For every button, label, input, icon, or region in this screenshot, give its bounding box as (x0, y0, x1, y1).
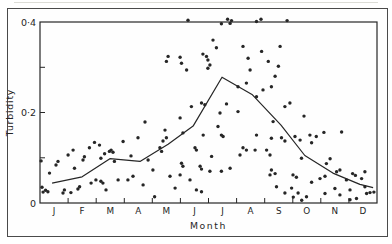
scatter-dot (129, 154, 132, 157)
scatter-dot (348, 198, 351, 201)
scatter-dot (185, 68, 188, 71)
scatter-dot (61, 191, 64, 194)
scanned-figure-page: 00·20·4 JFMAMJJASOND Turbidity Month (0, 0, 392, 244)
scatter-dot (273, 172, 276, 175)
x-axis-title: Month (190, 220, 227, 231)
scatter-dot (200, 167, 203, 170)
scatter-dot (302, 114, 305, 117)
month-label: O (303, 206, 310, 216)
scatter-dot (178, 56, 181, 59)
scatter-dot (348, 188, 351, 191)
scatter-dot (56, 160, 59, 163)
scatter-dot (202, 133, 205, 136)
scatter-dot (285, 19, 288, 22)
scatter-dot (283, 105, 286, 108)
scatter-dot (168, 175, 171, 178)
scatter-dot (241, 146, 244, 149)
scatter-dot (292, 195, 295, 198)
scatter-dot (48, 171, 51, 174)
scatter-dot (275, 185, 278, 188)
y-tick-label: 0·2 (21, 107, 36, 118)
scatter-dot (246, 57, 249, 60)
scatter-dot (270, 137, 273, 140)
scatter-dot (277, 65, 280, 68)
scatter-dot (39, 159, 42, 162)
scatter-dot (261, 88, 264, 91)
scatter-dot (267, 60, 270, 63)
scatter-dot (195, 188, 198, 191)
scatter-dot (318, 177, 321, 180)
scatter-dot (78, 185, 81, 188)
scatter-dot (255, 133, 258, 136)
scatter-dot (141, 183, 144, 186)
scatter-dot (93, 141, 96, 144)
scatter-dot (323, 192, 326, 195)
month-label: F (80, 206, 85, 216)
scatter-dot (225, 102, 228, 105)
scatter-dot (260, 50, 263, 53)
turbidity-scatter-chart: 00·20·4 JFMAMJJASOND Turbidity Month (0, 0, 392, 244)
month-label: J (52, 206, 56, 216)
scatter-dot (245, 81, 248, 84)
month-label: M (163, 206, 171, 216)
scatter-dot (104, 188, 107, 191)
scatter-dot (288, 101, 291, 104)
scatter-dot (295, 176, 298, 179)
scatter-dot (372, 190, 375, 193)
scatter-dot (163, 128, 166, 131)
scatter-dot (160, 150, 163, 153)
scatter-dot (226, 18, 229, 21)
scatter-dot (268, 173, 271, 176)
scatter-dot (228, 167, 231, 170)
scatter-dot (340, 130, 343, 133)
scatter-dot (300, 157, 303, 160)
scatter-dot (215, 46, 218, 49)
scatter-dot (305, 195, 308, 198)
scatter-dot (298, 138, 301, 141)
scatter-dot (220, 22, 223, 25)
scatter-dot (71, 148, 74, 151)
scatter-dot (195, 148, 198, 151)
scatter-dot (208, 63, 211, 66)
scatter-dot (328, 157, 331, 160)
scatter-dot (101, 181, 104, 184)
scatter-dot (248, 68, 251, 71)
scatter-dot (290, 186, 293, 189)
month-label: J (192, 206, 196, 216)
scatter-dot (208, 170, 211, 173)
y-axis-title: Turbidity (4, 89, 15, 137)
scatter-dot (325, 162, 328, 165)
scatter-dot (206, 58, 209, 61)
scatter-dot (200, 101, 203, 104)
scatter-dot (46, 190, 49, 193)
scatter-dot (253, 148, 256, 151)
scatter-dot (63, 188, 66, 191)
month-label: A (135, 206, 141, 216)
scatter-dot (218, 111, 221, 114)
scatter-dot (165, 60, 168, 63)
scatter-dot (238, 153, 241, 156)
scatter-dot (293, 135, 296, 138)
scatter-dot (368, 191, 371, 194)
scatter-dot (161, 139, 164, 142)
scatter-dot (181, 165, 184, 168)
scatter-dot (273, 75, 276, 78)
scatter-dot (205, 55, 208, 58)
scatter-dot (351, 172, 354, 175)
scatter-dot (73, 167, 76, 170)
scatter-dot (180, 162, 183, 165)
scatter-dot (111, 151, 114, 154)
scatter-dot (153, 195, 156, 198)
scatter-dot (190, 105, 193, 108)
scatter-dot (354, 174, 357, 177)
scatter-dot (131, 175, 134, 178)
scatter-dot (221, 135, 224, 138)
scatter-dot (126, 178, 129, 181)
month-label: M (106, 206, 114, 216)
scatter-dot (333, 187, 336, 190)
scatter-dot (83, 155, 86, 158)
scatter-dot (245, 148, 248, 151)
scatter-dot (271, 120, 274, 123)
y-tick-label: 0 (30, 198, 36, 209)
scatter-dot (283, 191, 286, 194)
